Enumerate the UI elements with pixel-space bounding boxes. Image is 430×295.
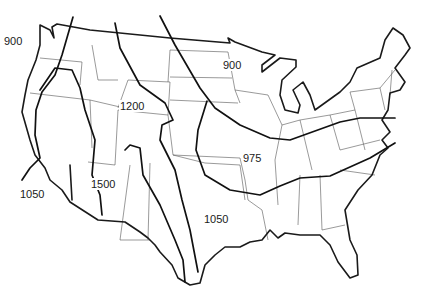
isoline-1500 bbox=[125, 145, 185, 282]
isoline-label: 900 bbox=[222, 59, 242, 71]
isoline-label: 1500 bbox=[90, 178, 116, 190]
isoline-label: 900 bbox=[3, 35, 23, 47]
us-outline bbox=[22, 24, 410, 285]
isoline-label: 1050 bbox=[19, 188, 45, 200]
isoline-975-north bbox=[160, 16, 395, 140]
isoline-label: 1050 bbox=[203, 213, 229, 225]
isoline-coastal bbox=[22, 17, 73, 180]
isoline-label: 975 bbox=[242, 152, 262, 164]
isolines bbox=[22, 16, 395, 282]
us-isoline-map bbox=[0, 0, 430, 295]
isoline-label: 1200 bbox=[119, 100, 145, 112]
